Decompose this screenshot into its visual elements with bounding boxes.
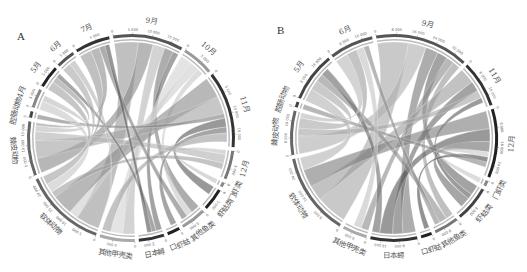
tick-label: 0	[289, 103, 294, 107]
segment-arc	[220, 182, 225, 188]
tick-label: 0	[72, 44, 77, 49]
chord-svg-a: 05 00010 00015 0009月05 00010月05 00010 00…	[0, 0, 263, 272]
tick-label: 0	[285, 154, 289, 158]
tick-label: 0	[416, 241, 420, 246]
tick-mark	[202, 61, 203, 62]
tick-label: 10 000	[232, 105, 239, 119]
tick-label: 5 000	[143, 242, 155, 248]
tick-label: 5 000	[106, 241, 118, 247]
tick-label: 0	[179, 231, 184, 236]
tick-label: 0	[468, 59, 473, 64]
tick-mark	[95, 236, 96, 237]
tick-label: 8 000	[284, 132, 288, 143]
tick-mark	[489, 181, 490, 182]
tick-label: 0	[327, 49, 332, 54]
tick-mark	[50, 204, 51, 205]
tick-mark	[432, 235, 433, 236]
tick-label: 0	[92, 237, 96, 242]
tick-label: 0	[431, 236, 435, 241]
tick-mark	[479, 78, 480, 79]
segment-label: 5月	[29, 60, 43, 75]
tick-label: 0	[214, 69, 219, 74]
tick-mark	[35, 95, 36, 96]
tick-label: 0	[26, 104, 31, 108]
tick-mark	[345, 44, 346, 45]
segment-arc	[295, 101, 300, 107]
tick-label: 0	[163, 238, 167, 243]
tick-mark	[204, 212, 205, 213]
tick-label: 0	[133, 244, 136, 248]
segment-arc	[483, 180, 488, 186]
segment-label: 棘皮动物	[269, 117, 280, 146]
segment-label: 口虾蛄	[419, 241, 443, 257]
tick-mark	[339, 227, 340, 228]
tick-label: 0	[28, 175, 33, 179]
tick-label: 0	[374, 29, 378, 33]
segment-inner-track	[34, 112, 37, 118]
tick-mark	[488, 94, 489, 95]
tick-mark	[33, 176, 34, 177]
tick-label: 10 000	[21, 139, 26, 153]
tick-label: 16 000	[412, 29, 426, 36]
tick-mark	[192, 222, 193, 223]
segment-label: 其他鱼类	[439, 227, 469, 250]
tick-label: 0	[292, 94, 297, 98]
tick-mark	[319, 64, 320, 65]
tick-mark	[225, 183, 226, 184]
segment-arc	[370, 236, 417, 242]
segment-label: 7月	[79, 22, 93, 35]
segment-label: 4月	[15, 85, 28, 99]
segment-inner-track	[420, 229, 431, 234]
tick-mark	[78, 228, 79, 229]
tick-label: 0	[495, 106, 500, 110]
segment-label: 6月	[337, 24, 351, 37]
tick-label: 8 000	[394, 244, 405, 249]
tick-label: 0	[186, 44, 191, 49]
tick-label: 24 000	[494, 161, 501, 175]
tick-mark	[213, 203, 214, 204]
tick-label: 16 000	[373, 242, 387, 248]
tick-mark	[180, 230, 181, 231]
segment-label: 9月	[421, 18, 435, 30]
tick-mark	[351, 233, 352, 234]
chord-diagram-a: A 05 00010 00015 0009月05 00010月05 00010 …	[0, 0, 263, 272]
tick-label: 0	[204, 213, 209, 218]
tick-mark	[96, 39, 97, 40]
segment-label: 日本蟳	[383, 250, 405, 260]
segment-inner-track	[300, 103, 303, 109]
tick-label: 0	[221, 191, 226, 196]
tick-label: 0	[23, 114, 28, 118]
tick-label: 16 000	[499, 141, 504, 155]
tick-label: 5 000	[89, 32, 101, 39]
tick-label: 0	[335, 227, 340, 232]
tick-mark	[295, 173, 296, 174]
tick-label: 5 000	[128, 28, 139, 32]
tick-label: 8 000	[499, 122, 504, 133]
tick-label: 0	[485, 190, 490, 195]
segment-arc	[29, 111, 33, 118]
segment-label: 腔肠动物	[272, 83, 291, 114]
tick-label: 0	[457, 221, 462, 226]
ribbons	[298, 42, 490, 234]
segment-label: 11月	[238, 95, 251, 113]
segment-label: 棘皮动物	[8, 136, 21, 166]
tick-label: 10 000	[147, 29, 161, 36]
tick-mark	[63, 218, 64, 219]
tick-mark	[48, 73, 49, 74]
tick-mark	[186, 48, 187, 49]
segment-label: 6月	[48, 39, 63, 53]
tick-mark	[213, 73, 214, 74]
tick-mark	[66, 55, 67, 56]
tick-label: 0	[52, 59, 57, 64]
tick-label: 8 000	[392, 28, 403, 32]
segment-label: 口虾蛄	[168, 235, 192, 253]
tick-mark	[224, 92, 225, 93]
chord-svg-b: 08 00016 00024 00032 0009月08 00016 00011…	[263, 0, 527, 272]
chord-diagram-b: B 08 00016 00024 00032 0009月08 00016 000…	[263, 0, 526, 272]
tick-label: 15 000	[21, 123, 26, 137]
tick-mark	[320, 212, 321, 213]
segment-arc	[421, 232, 432, 238]
tick-label: 0	[111, 29, 115, 33]
tick-label: 5 000	[230, 165, 237, 177]
tick-mark	[330, 54, 331, 55]
